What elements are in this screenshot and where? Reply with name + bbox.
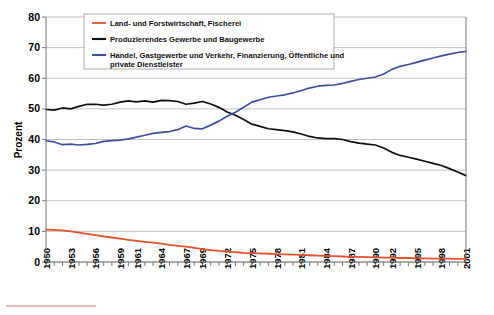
y-tick-label-30: 30 (28, 164, 40, 176)
y-tick-label-20: 20 (28, 194, 40, 206)
y-tick-label-0: 0 (34, 256, 40, 268)
legend-label-agriculture: Land- und Forstwirtschaft, Fischerei (110, 19, 241, 28)
y-tick-label-10: 10 (28, 225, 40, 237)
y-axis-tick-labels: 01020304050607080 (28, 11, 46, 268)
chart-canvas: 01020304050607080 1950195319561959196119… (0, 0, 494, 315)
y-axis-title: Prozent (13, 121, 24, 158)
x-tick-label-1969: 1969 (197, 248, 208, 269)
y-tick-label-40: 40 (28, 133, 40, 145)
y-tick-label-80: 80 (28, 11, 40, 23)
x-tick-label-1961: 1961 (132, 247, 143, 269)
x-tick-label-1978: 1978 (272, 248, 283, 269)
x-tick-label-1984: 1984 (321, 247, 332, 269)
x-tick-label-1953: 1953 (66, 248, 77, 269)
x-tick-label-1975: 1975 (247, 247, 258, 269)
x-tick-label-1967: 1967 (181, 248, 192, 269)
x-tick-label-1987: 1987 (346, 248, 357, 269)
data-series (46, 51, 466, 259)
x-tick-label-1959: 1959 (115, 248, 126, 269)
x-tick-label-1981: 1981 (296, 247, 307, 269)
y-tick-label-50: 50 (28, 102, 40, 114)
line-chart: 01020304050607080 1950195319561959196119… (0, 0, 494, 315)
legend-label-services-line2: private Dienstleister (110, 60, 183, 69)
series-line-1 (46, 100, 466, 175)
y-tick-label-70: 70 (28, 41, 40, 53)
x-tick-label-1964: 1964 (156, 247, 167, 269)
legend-label-services-line1: Handel, Gastgewerbe und Verkehr, Finanzi… (110, 51, 345, 60)
legend-label-industry: Produzierendes Gewerbe und Baugewerbe (110, 35, 264, 44)
x-tick-label-1956: 1956 (90, 248, 101, 269)
y-tick-label-60: 60 (28, 72, 40, 84)
legend: Land- und Forstwirtschaft, Fischerei Pro… (84, 14, 345, 69)
